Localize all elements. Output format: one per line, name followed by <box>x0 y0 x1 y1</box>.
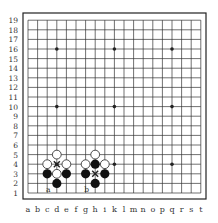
hoshi-point <box>170 47 174 51</box>
col-label: f <box>75 205 79 214</box>
hoshi-point <box>55 47 59 51</box>
black-stone <box>100 169 109 178</box>
col-label: s <box>189 205 193 214</box>
col-label: m <box>130 205 138 214</box>
black-stone <box>91 179 100 188</box>
col-label: n <box>141 205 146 214</box>
row-label: 19 <box>8 16 18 25</box>
row-label: 16 <box>8 45 18 54</box>
row-label: 14 <box>8 64 18 73</box>
white-stone <box>91 150 100 159</box>
col-label: g <box>83 205 88 214</box>
point-label: a <box>46 185 51 194</box>
white-stone <box>81 160 90 169</box>
black-stone <box>91 160 100 169</box>
col-label: d <box>54 205 59 214</box>
col-label: h <box>93 205 98 214</box>
black-stone <box>43 169 52 178</box>
col-label: i <box>104 205 107 214</box>
row-label: 8 <box>13 122 18 131</box>
row-label: 10 <box>8 103 18 112</box>
white-stone <box>43 160 52 169</box>
hoshi-point <box>55 105 59 109</box>
col-label: o <box>150 205 155 214</box>
col-label: a <box>26 205 31 214</box>
row-label: 17 <box>8 35 18 44</box>
go-board: a1b2c3d4e5f6g7h8i9k10l11m12n13o14p15q16r… <box>0 0 218 223</box>
point-label: b <box>84 185 89 194</box>
row-label: 9 <box>13 112 18 121</box>
col-label: t <box>199 205 203 214</box>
row-label: 13 <box>8 74 18 83</box>
row-label: 2 <box>13 179 18 188</box>
hoshi-point <box>170 162 174 166</box>
row-label: 7 <box>13 131 18 140</box>
row-label: 4 <box>13 160 18 169</box>
white-stone <box>62 160 71 169</box>
col-label: r <box>180 205 184 214</box>
col-label: p <box>160 205 165 214</box>
row-label: 18 <box>8 26 18 35</box>
row-label: 12 <box>8 83 18 92</box>
black-stone <box>52 179 61 188</box>
hoshi-point <box>170 105 174 109</box>
white-stone <box>100 160 109 169</box>
black-stone <box>81 169 90 178</box>
row-label: 15 <box>8 55 18 64</box>
row-label: 11 <box>8 93 18 102</box>
hoshi-point <box>113 105 117 109</box>
row-label: 5 <box>13 151 18 160</box>
col-label: l <box>123 205 126 214</box>
col-label: c <box>45 205 50 214</box>
row-label: 1 <box>13 189 18 198</box>
col-label: e <box>64 205 69 214</box>
hoshi-point <box>113 162 117 166</box>
hoshi-point <box>113 47 117 51</box>
col-label: q <box>169 205 174 214</box>
col-label: b <box>35 205 40 214</box>
white-stone <box>52 169 61 178</box>
row-label: 6 <box>13 141 18 150</box>
col-label: k <box>112 205 117 214</box>
white-stone <box>52 150 61 159</box>
black-stone <box>62 169 71 178</box>
row-label: 3 <box>13 170 18 179</box>
